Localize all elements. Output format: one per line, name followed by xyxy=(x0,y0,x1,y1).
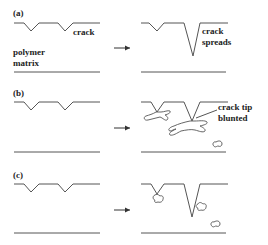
panel-c: (c) xyxy=(13,170,228,233)
crack-spreads-label-2: spreads xyxy=(202,37,232,47)
particle-c-1 xyxy=(153,194,163,202)
panel-a: (a) crack polymer matrix crack spreads xyxy=(13,8,232,72)
polymer-matrix-label-1: polymer xyxy=(13,47,45,57)
panel-a-crack-label: crack xyxy=(73,27,95,37)
panel-a-label: (a) xyxy=(13,8,24,18)
particle-b xyxy=(213,141,222,147)
crack-tip-label-2: blunted xyxy=(218,113,248,123)
blunted-craze-2 xyxy=(169,121,207,135)
panel-b: (b) crack tip blunted xyxy=(13,88,252,152)
crack-spreads-label-1: crack xyxy=(202,26,224,36)
panel-b-left-surface xyxy=(14,102,100,110)
crack-tip-label-1: crack tip xyxy=(218,102,252,112)
panel-c-right-surface xyxy=(141,184,228,217)
panel-c-left-surface xyxy=(14,184,100,192)
crack-tip-pointer xyxy=(196,110,217,118)
polymer-matrix-label-2: matrix xyxy=(13,58,39,68)
particle-c-2 xyxy=(196,203,206,211)
particle-c-3 xyxy=(211,221,220,227)
panel-c-label: (c) xyxy=(13,170,23,180)
panel-b-label: (b) xyxy=(13,88,24,98)
blunted-craze-1 xyxy=(144,111,170,120)
crack-diagram: (a) crack polymer matrix crack spreads (… xyxy=(0,0,268,245)
